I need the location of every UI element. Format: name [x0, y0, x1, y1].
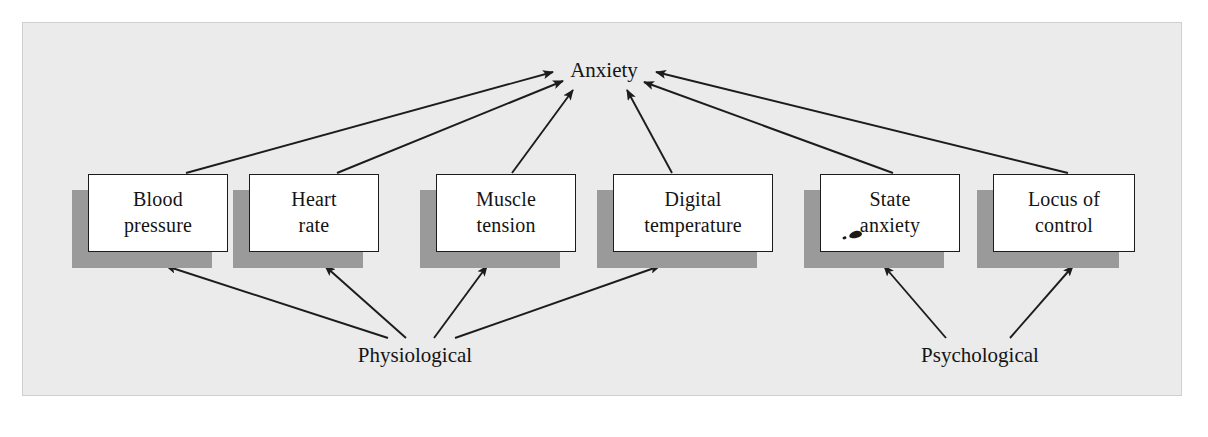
node-label-line2: control [1035, 213, 1093, 239]
node-muscle-tension[interactable]: Muscle tension [436, 174, 576, 252]
node-label-line2: rate [299, 213, 330, 239]
arrow-physiological-to-blood-pressure [166, 266, 388, 338]
diagram-canvas: Anxiety Blood pressure Heart rate Muscle… [0, 0, 1208, 437]
arrow-muscle-tension-to-anxiety [512, 90, 573, 173]
arrow-psychological-to-locus-of-control [1010, 266, 1073, 338]
node-blood-pressure[interactable]: Blood pressure [88, 174, 228, 252]
node-label-line2: anxiety [860, 213, 920, 239]
node-heart-rate[interactable]: Heart rate [249, 174, 379, 252]
node-box: Blood pressure [88, 174, 228, 252]
arrow-heart-rate-to-anxiety [337, 81, 563, 173]
node-label-line2: pressure [124, 213, 192, 239]
arrow-locus-of-control-to-anxiety [656, 72, 1068, 173]
node-box: Heart rate [249, 174, 379, 252]
node-box: State anxiety [820, 174, 960, 252]
anxiety-node-label: Anxiety [0, 58, 1208, 83]
node-label-line2: tension [476, 213, 535, 239]
node-state-anxiety[interactable]: State anxiety [820, 174, 960, 252]
node-digital-temperature[interactable]: Digital temperature [613, 174, 773, 252]
arrow-digital-temperature-to-anxiety [627, 90, 672, 173]
node-label-line1: State [870, 187, 911, 213]
arrow-physiological-to-heart-rate [325, 266, 406, 338]
node-label-line1: Muscle [476, 187, 536, 213]
arrow-physiological-to-digital-temperature [455, 266, 660, 338]
node-label-line1: Heart [291, 187, 336, 213]
node-box: Digital temperature [613, 174, 773, 252]
arrow-blood-pressure-to-anxiety [186, 72, 553, 173]
node-box: Muscle tension [436, 174, 576, 252]
node-box: Locus of control [993, 174, 1135, 252]
node-label-line2: temperature [644, 213, 742, 239]
arrow-psychological-to-state-anxiety [884, 266, 946, 338]
node-locus-of-control[interactable]: Locus of control [993, 174, 1135, 252]
node-label-line1: Locus of [1028, 187, 1100, 213]
arrow-state-anxiety-to-anxiety [644, 82, 893, 173]
psychological-group-label: Psychological [890, 343, 1070, 368]
node-label-line1: Digital [665, 187, 722, 213]
physiological-group-label: Physiological [330, 343, 500, 368]
arrow-physiological-to-muscle-tension [434, 266, 487, 338]
node-label-line1: Blood [133, 187, 183, 213]
